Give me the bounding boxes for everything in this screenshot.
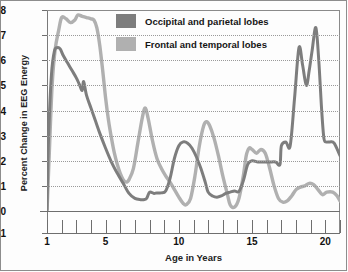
x-tick-minor-1 [47,220,48,233]
y-tick-label-0: 0 [0,206,6,217]
x-tick-minor-12 [208,220,209,233]
x-tick-minor-6 [120,220,121,233]
x-tick-minor-9 [164,220,165,233]
gridline-y-6 [47,60,340,61]
gridline-y-1 [47,186,340,187]
legend-label-occipital-parietal: Occipital and parietal lobes [145,16,269,27]
y-axis-title: Percent Change in EEG Energy [19,33,29,213]
x-tick-minor-17 [281,220,282,233]
y-tick-label-6: 6 [0,55,6,66]
legend-label-frontal-temporal: Frontal and temporal lobes [145,39,267,50]
y-tick-label-5: 5 [0,80,6,91]
x-tick-minor-2 [62,220,63,233]
y-tick-label-7: 7 [0,30,6,41]
y-tick-mark-0 [42,211,47,212]
y-tick-mark--1 [42,233,47,234]
y-tick-label-3: 3 [0,130,6,141]
x-tick-minor-3 [76,220,77,233]
gridline-y-4 [47,111,340,112]
x-tick-minor-5 [106,220,107,233]
x-tick-minor-20 [325,220,326,233]
x-tick-minor-13 [223,220,224,233]
legend-swatch-frontal-temporal [116,37,136,51]
legend-item-occipital-parietal: Occipital and parietal lobes [116,14,269,28]
x-tick-minor-18 [296,220,297,233]
x-tick-minor-8 [150,220,151,233]
x-tick-minor-10 [179,220,180,233]
x-tick-minor-11 [194,220,195,233]
x-tick-label-10: 10 [164,236,194,247]
gridline-y-5 [47,85,340,86]
x-tick-minor-19 [311,220,312,233]
x-tick-minor-14 [237,220,238,233]
x-tick-minor-7 [135,220,136,233]
x-tick-label-15: 15 [237,236,267,247]
zero-baseline [40,211,340,212]
x-tick-label-1: 1 [32,236,62,247]
x-tick-minor-21 [340,220,341,233]
legend-item-frontal-temporal: Frontal and temporal lobes [116,37,269,51]
y-tick-label--1: -1 [0,228,6,239]
chart-figure: Percent Change in EEG Energy -1012345678… [0,0,348,272]
gridline-y-3 [47,136,340,137]
gridline-y-2 [47,161,340,162]
y-tick-label-8: 8 [0,5,6,16]
y-tick-label-4: 4 [0,105,6,116]
x-tick-minor-15 [252,220,253,233]
chart-legend: Occipital and parietal lobes Frontal and… [116,14,269,60]
x-axis-line [47,233,340,234]
x-tick-label-5: 5 [91,236,121,247]
x-tick-label-20: 20 [310,236,340,247]
x-axis-title: Age in Years [47,252,340,263]
x-tick-minor-16 [267,220,268,233]
y-tick-label-1: 1 [0,180,6,191]
x-tick-minor-4 [91,220,92,233]
legend-swatch-occipital-parietal [116,14,136,28]
y-tick-label-2: 2 [0,155,6,166]
